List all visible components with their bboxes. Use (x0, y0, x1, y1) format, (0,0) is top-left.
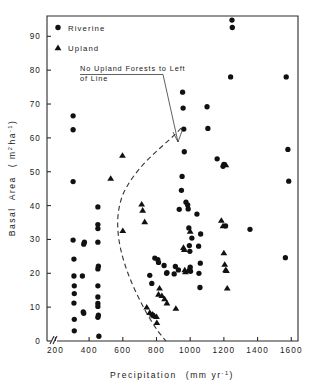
data-point-upland (107, 175, 114, 181)
y-tick-label: 60 (30, 134, 41, 143)
series-upland-points (107, 152, 230, 325)
data-point-riverine (187, 243, 192, 248)
data-point-riverine (181, 126, 186, 131)
data-point-upland (139, 207, 146, 213)
x-tick-label: 1600 (280, 346, 303, 355)
y-tick-label: 70 (30, 100, 41, 109)
data-point-riverine (149, 281, 154, 286)
data-point-riverine (156, 260, 161, 265)
data-point-upland (153, 319, 160, 325)
y-axis-ticks (47, 36, 51, 341)
data-point-riverine (204, 104, 209, 109)
y-axis-tick-labels: 0102030405060708090 (30, 32, 41, 346)
data-point-riverine (95, 283, 100, 288)
x-tick-label: 1000 (179, 346, 202, 355)
data-point-riverine (189, 235, 194, 240)
data-point-upland (172, 305, 179, 311)
legend-label-riverine: Riverine (68, 24, 105, 33)
annotation-line-2: of Line (80, 74, 108, 83)
legend-label-upland: Upland (68, 44, 99, 53)
data-point-riverine (147, 273, 152, 278)
data-point-riverine (176, 267, 181, 272)
data-point-riverine (72, 317, 77, 322)
data-point-riverine (95, 304, 100, 309)
y-tick-label: 90 (30, 32, 41, 41)
data-point-riverine (95, 315, 100, 320)
data-point-riverine (71, 256, 76, 261)
y-tick-label: 20 (30, 269, 41, 278)
data-point-riverine (187, 249, 192, 254)
legend-marker-riverine (55, 25, 60, 30)
data-point-riverine (95, 294, 100, 299)
data-point-riverine (179, 174, 184, 179)
data-point-riverine (228, 74, 233, 79)
data-point-riverine (214, 156, 219, 161)
x-tick-label: 400 (81, 346, 98, 355)
data-point-riverine (194, 211, 199, 216)
data-point-riverine (81, 311, 86, 316)
data-point-riverine (196, 244, 201, 249)
data-point-riverine (286, 179, 291, 184)
data-point-riverine (283, 255, 288, 260)
y-axis-title: BasalArea( m2ha-1) (7, 120, 17, 237)
data-point-riverine (70, 127, 75, 132)
x-tick-label: 600 (114, 346, 131, 355)
data-point-riverine (186, 206, 191, 211)
data-point-riverine (180, 90, 185, 95)
data-point-riverine (70, 237, 75, 242)
x-tick-label: 200 (47, 346, 64, 355)
data-point-riverine (95, 266, 100, 271)
x-axis-title: Precipitation(mm yr-1) (110, 370, 234, 380)
data-point-riverine (180, 105, 185, 110)
data-point-upland (138, 201, 145, 207)
x-tick-label: 1400 (246, 346, 269, 355)
data-point-upland (143, 304, 150, 310)
data-point-riverine (71, 300, 76, 305)
data-point-riverine (80, 273, 85, 278)
data-point-upland (141, 219, 148, 225)
data-point-riverine (230, 25, 235, 30)
x-axis-ticks (55, 337, 291, 341)
annotation-leader-line (80, 75, 178, 143)
data-point-riverine (71, 273, 76, 278)
data-point-riverine (72, 291, 77, 296)
y-tick-label: 0 (35, 337, 41, 346)
y-tick-label: 80 (30, 66, 41, 75)
data-point-riverine (70, 179, 75, 184)
y-tick-label: 10 (30, 303, 41, 312)
scatter-plot: 2004006008001000120014001600 01020304050… (0, 0, 315, 391)
data-point-upland (119, 227, 126, 233)
y-tick-label: 40 (30, 202, 41, 211)
data-point-riverine (161, 263, 166, 268)
data-point-riverine (164, 270, 169, 275)
legend: Riverine Upland (55, 24, 106, 53)
data-point-riverine (284, 74, 289, 79)
data-point-riverine (72, 283, 77, 288)
data-point-riverine (95, 239, 100, 244)
data-point-riverine (205, 126, 210, 131)
data-point-riverine (72, 328, 77, 333)
data-point-riverine (95, 226, 100, 231)
data-point-riverine (177, 207, 182, 212)
data-point-riverine (172, 271, 177, 276)
x-tick-label: 1200 (213, 346, 236, 355)
x-tick-label: 800 (148, 346, 165, 355)
data-point-riverine (70, 113, 75, 118)
data-point-upland (224, 285, 231, 291)
data-point-riverine (229, 17, 234, 22)
annotation-arrowhead (173, 131, 182, 142)
data-point-riverine (82, 239, 87, 244)
data-point-riverine (198, 260, 203, 265)
data-point-riverine (96, 334, 101, 339)
annotation-line-1: No Upland Forests to Left (80, 64, 185, 73)
data-point-riverine (198, 231, 203, 236)
data-point-riverine (182, 149, 187, 154)
data-point-riverine (197, 285, 202, 290)
x-axis-tick-labels: 2004006008001000120014001600 (47, 346, 303, 355)
legend-marker-upland (55, 45, 62, 51)
data-point-upland (119, 152, 126, 158)
data-point-riverine (179, 188, 184, 193)
data-point-upland (218, 217, 225, 223)
data-point-upland (220, 250, 227, 256)
y-tick-label: 50 (30, 168, 41, 177)
